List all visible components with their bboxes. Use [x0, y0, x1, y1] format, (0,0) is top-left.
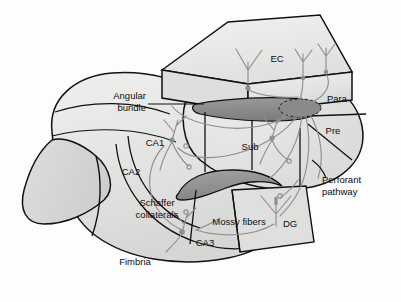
label-ec: EC: [270, 53, 283, 64]
label-ca1: CA1: [146, 137, 164, 148]
label-perforant-line1: Perforant: [322, 174, 361, 185]
label-angular-bundle-line1: Angular: [113, 90, 146, 101]
ec-top-face: [162, 15, 352, 84]
hippocampus-diagram: EC Para Pre Sub CA1 CA2 CA3 DG Fimbria A…: [0, 0, 401, 302]
label-dg: DG: [283, 218, 297, 229]
diagram-canvas: EC Para Pre Sub CA1 CA2 CA3 DG Fimbria A…: [0, 0, 401, 302]
label-para: Para: [327, 93, 348, 104]
label-schaffer-line1: Schaffer: [139, 197, 174, 208]
label-ca3: CA3: [196, 237, 214, 248]
label-angular-bundle-line2: bundle: [117, 102, 146, 113]
label-mossy-fibers: Mossy fibers: [212, 216, 266, 227]
label-fimbria: Fimbria: [119, 256, 151, 267]
label-schaffer-line2: collaterals: [136, 209, 179, 220]
label-perforant-line2: pathway: [322, 186, 358, 197]
label-ca2: CA2: [122, 166, 140, 177]
label-pre: Pre: [326, 125, 341, 136]
label-sub: Sub: [242, 141, 259, 152]
